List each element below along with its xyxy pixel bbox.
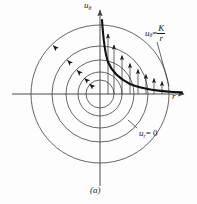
vertical-axis-label: uθ — [84, 1, 91, 11]
streamline-direction-arrows — [53, 46, 91, 86]
vortex-flow-diagram — [0, 0, 197, 204]
direction-arrow-4 — [67, 60, 69, 62]
equation-denominator: r — [157, 33, 165, 43]
equation-numerator: K — [157, 24, 165, 33]
radial-velocity-value: = 0 — [146, 128, 158, 138]
vertical-axis-label-subscript: θ — [89, 5, 92, 11]
radial-velocity-annotation: ur= 0 — [139, 129, 158, 139]
equation-leader-line — [157, 42, 169, 86]
figure-container: uθ r uθ=Kr ur= 0 (a) — [0, 0, 197, 204]
direction-arrow-2 — [84, 78, 85, 79]
figure-caption: (a) — [90, 186, 101, 195]
direction-arrow-3 — [77, 70, 79, 72]
horizontal-axis-label: r — [172, 92, 176, 101]
equation-label: uθ=Kr — [145, 24, 165, 43]
equation-fraction: Kr — [157, 24, 165, 43]
direction-arrow-5 — [53, 46, 55, 48]
ur-leader-line — [128, 120, 137, 128]
